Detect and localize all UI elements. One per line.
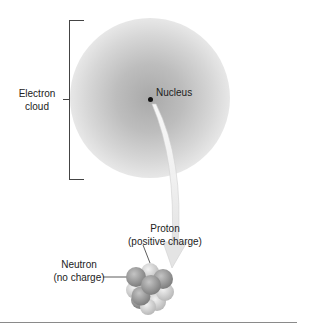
proton-label: Proton (positive charge)	[110, 222, 220, 248]
nucleus-cluster	[126, 263, 174, 315]
neutron-label-line2: (no charge)	[44, 271, 114, 284]
neutron-label: Neutron (no charge)	[44, 258, 114, 284]
bottom-divider	[0, 322, 297, 323]
proton-label-line2: (positive charge)	[110, 235, 220, 248]
proton-label-line1: Proton	[110, 222, 220, 235]
neutron-label-line1: Neutron	[44, 258, 114, 271]
